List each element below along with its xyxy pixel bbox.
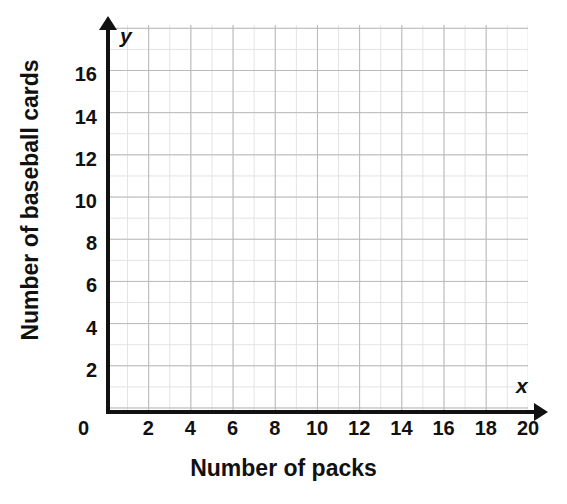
y-axis-title: Number of baseball cards <box>10 0 50 400</box>
x-tick-label-6: 6 <box>227 417 238 440</box>
x-tick-label-2: 2 <box>143 417 154 440</box>
y-axis-arrow-icon <box>99 16 117 30</box>
x-axis-title: Number of packs <box>0 455 567 482</box>
x-tick-label-12: 12 <box>348 417 370 440</box>
y-tick-label-10: 10 <box>75 190 97 213</box>
y-axis-variable-label: y <box>120 24 132 48</box>
y-tick-label-16: 16 <box>75 63 97 86</box>
x-tick-label-4: 4 <box>185 417 196 440</box>
x-tick-label-20: 20 <box>517 417 539 440</box>
origin-tick-label: 0 <box>78 417 89 440</box>
y-tick-label-6: 6 <box>86 274 97 297</box>
x-tick-label-8: 8 <box>269 417 280 440</box>
x-tick-label-10: 10 <box>306 417 328 440</box>
x-tick-label-18: 18 <box>475 417 497 440</box>
plot-grid-area <box>106 25 528 412</box>
y-tick-label-8: 8 <box>86 232 97 255</box>
x-axis-line <box>106 410 538 414</box>
y-axis-line <box>106 28 110 412</box>
y-tick-label-14: 14 <box>75 105 97 128</box>
y-tick-label-2: 2 <box>86 358 97 381</box>
y-tick-label-12: 12 <box>75 147 97 170</box>
coordinate-plane-chart: y x 0 2 4 6 8 10 12 14 16 18 20 2 4 6 8 … <box>0 0 567 504</box>
x-tick-label-14: 14 <box>390 417 412 440</box>
x-tick-label-16: 16 <box>432 417 454 440</box>
y-tick-label-4: 4 <box>86 316 97 339</box>
x-axis-variable-label: x <box>516 374 528 398</box>
